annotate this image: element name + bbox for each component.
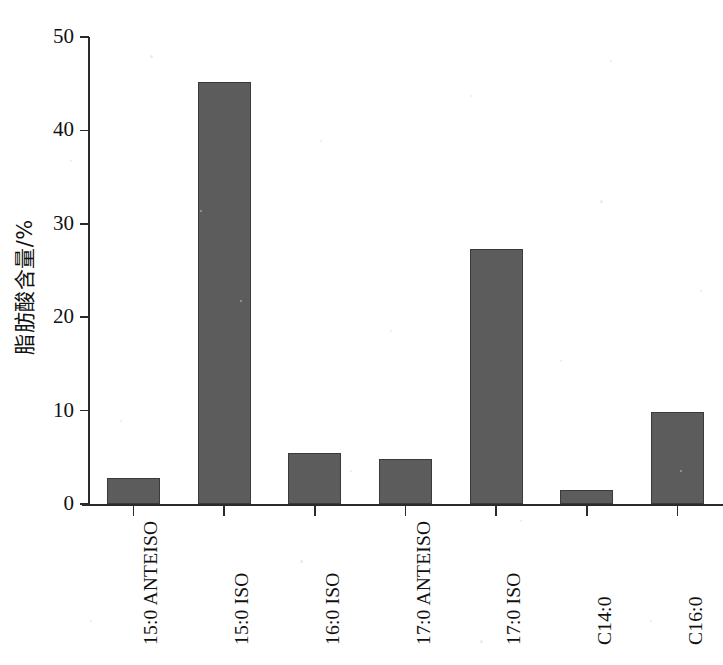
x-tick-label: 17:0 ISO [504,572,524,645]
x-tick-mark [495,505,497,516]
y-tick-mark [80,503,89,505]
bar [560,490,613,504]
y-tick-mark [80,223,89,225]
x-axis-line [82,504,723,506]
x-tick-label: C16:0 [686,596,706,645]
y-tick-label: 0 [30,493,74,514]
y-tick-label: 30 [30,213,74,234]
bar [198,82,251,504]
bar [107,478,160,504]
y-tick-label: 20 [30,306,74,327]
y-tick-mark [80,316,89,318]
y-axis-line [88,37,90,505]
x-tick-label: 16:0 ISO [323,572,343,645]
x-tick-mark [133,505,135,516]
x-tick-mark [223,505,225,516]
bar-chart: 脂肪酸含量/% 0102030405015:0 ANTEISO15:0 ISO1… [0,0,723,665]
x-tick-mark [314,505,316,516]
x-tick-mark [677,505,679,516]
y-tick-mark [80,36,89,38]
x-tick-label: 15:0 ISO [232,572,252,645]
y-tick-mark [80,410,89,412]
x-tick-label: 17:0 ANTEISO [414,521,434,645]
y-tick-label: 10 [30,400,74,421]
bar [470,249,523,504]
y-tick-mark [80,130,89,132]
bar [288,453,341,504]
x-tick-mark [405,505,407,516]
y-tick-label: 40 [30,119,74,140]
chart-page: 脂肪酸含量/% 0102030405015:0 ANTEISO15:0 ISO1… [0,0,723,665]
bar [651,412,704,504]
x-tick-mark [586,505,588,516]
x-tick-label: C14:0 [595,596,615,645]
bar [379,459,432,504]
x-tick-label: 15:0 ANTEISO [141,521,161,645]
y-tick-label: 50 [30,26,74,47]
